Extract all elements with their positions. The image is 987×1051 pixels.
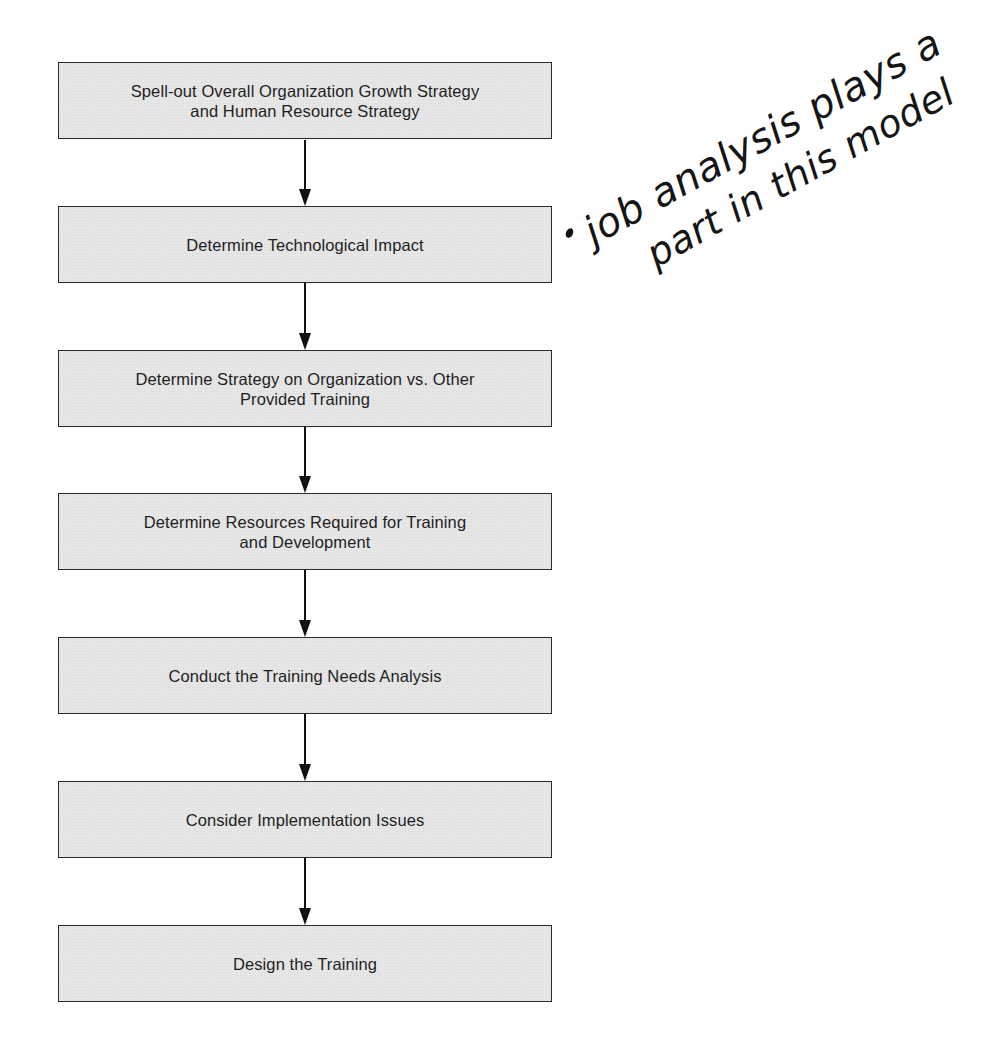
flow-step-strategy: Spell-out Overall Organization Growth St… [58,62,552,139]
flow-step-training-strategy: Determine Strategy on Organization vs. O… [58,350,552,427]
annotation-bullet-icon [564,227,575,239]
flow-step-needs-analysis: Conduct the Training Needs Analysis [58,637,552,714]
arrow-down-2 [299,283,311,350]
arrowhead-icon [299,333,311,350]
arrowhead-icon [299,476,311,493]
arrow-shaft [304,427,306,477]
arrow-down-6 [299,858,311,925]
arrow-down-5 [299,714,311,781]
arrow-shaft [304,283,306,334]
arrow-shaft [304,140,306,190]
arrowhead-icon [299,620,311,637]
arrowhead-icon [299,908,311,925]
flow-step-resources: Determine Resources Required for Trainin… [58,493,552,570]
arrow-down-4 [299,570,311,637]
flow-step-implementation: Consider Implementation Issues [58,781,552,858]
arrow-shaft [304,714,306,765]
arrow-shaft [304,570,306,621]
flow-step-technological-impact: Determine Technological Impact [58,206,552,283]
arrow-down-1 [299,140,311,206]
arrowhead-icon [299,764,311,781]
arrowhead-icon [299,189,311,206]
flow-step-design-training: Design the Training [58,925,552,1002]
arrow-down-3 [299,427,311,493]
arrow-shaft [304,858,306,909]
